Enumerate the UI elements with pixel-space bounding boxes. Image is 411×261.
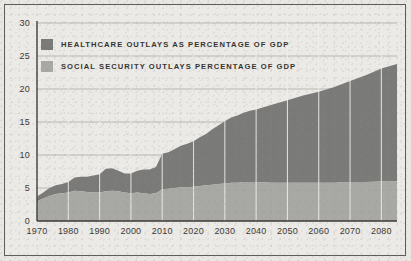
x-axis-tick-label: 2040 bbox=[246, 226, 267, 236]
x-axis-tick-label: 1970 bbox=[27, 226, 48, 236]
chart-screenshot: 0510152025301970198019902000201020202030… bbox=[0, 0, 411, 261]
x-axis-tick-label: 2050 bbox=[277, 226, 298, 236]
x-axis-tick-label: 1980 bbox=[58, 226, 79, 236]
chart-legend: HEALTHCARE OUTLAYS AS PERCENTAGE OF GDP … bbox=[41, 36, 296, 80]
x-axis-tick-label: 2080 bbox=[371, 226, 392, 236]
x-axis-tick-label: 2030 bbox=[214, 226, 235, 236]
x-axis-tick-label: 2070 bbox=[340, 226, 361, 236]
y-axis-tick-label: 15 bbox=[20, 117, 30, 127]
y-axis-tick-label: 10 bbox=[20, 150, 30, 160]
x-axis-tick-label: 2020 bbox=[183, 226, 204, 236]
legend-item-healthcare: HEALTHCARE OUTLAYS AS PERCENTAGE OF GDP bbox=[41, 36, 296, 53]
legend-label-healthcare: HEALTHCARE OUTLAYS AS PERCENTAGE OF GDP bbox=[61, 40, 289, 49]
chart-frame: 0510152025301970198019902000201020202030… bbox=[4, 4, 406, 256]
area-series-2 bbox=[37, 64, 397, 201]
x-axis-tick-label: 1990 bbox=[89, 226, 110, 236]
x-axis-tick-label: 2000 bbox=[120, 226, 141, 236]
legend-swatch-healthcare-icon bbox=[41, 39, 53, 50]
x-axis-tick-label: 2060 bbox=[308, 226, 329, 236]
y-axis-tick-label: 25 bbox=[20, 51, 30, 61]
y-axis-tick-label: 0 bbox=[25, 216, 30, 226]
y-axis-tick-label: 5 bbox=[25, 183, 30, 193]
x-axis-tick-label: 2010 bbox=[152, 226, 173, 236]
legend-label-social-security: SOCIAL SECURITY OUTLAYS PERCENTAGE OF GD… bbox=[61, 62, 296, 71]
legend-swatch-social-security-icon bbox=[41, 61, 53, 72]
y-axis-tick-label: 20 bbox=[20, 84, 30, 94]
y-axis-tick-label: 30 bbox=[20, 18, 30, 28]
legend-item-social-security: SOCIAL SECURITY OUTLAYS PERCENTAGE OF GD… bbox=[41, 58, 296, 75]
